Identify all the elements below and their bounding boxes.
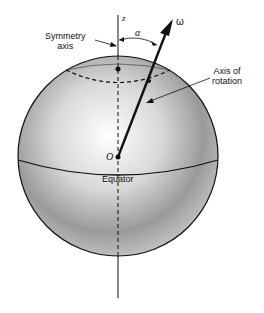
origin-point — [116, 155, 121, 160]
origin-label: O — [106, 152, 113, 162]
symmetry-leader-arrow — [110, 42, 117, 47]
sphere-diagram — [0, 0, 264, 313]
alpha-arrow-right — [151, 41, 157, 46]
rotation-axis-label-line2: rotation — [212, 76, 242, 86]
z-axis-label: z — [122, 13, 126, 23]
alpha-label: α — [135, 28, 140, 38]
symmetry-axis-label-line1: Symmetry — [45, 31, 86, 41]
symmetry-axis-label-line2: axis — [45, 41, 86, 51]
omega-arrowhead — [160, 19, 173, 36]
symmetry-axis-label: Symmetry axis — [45, 31, 86, 51]
equator-label: Equator — [102, 174, 134, 184]
rotation-axis-label-line1: Axis of — [212, 66, 242, 76]
rotation-axis-label: Axis of rotation — [212, 66, 242, 86]
pole-point — [116, 67, 121, 72]
omega-label: ω — [176, 17, 184, 27]
